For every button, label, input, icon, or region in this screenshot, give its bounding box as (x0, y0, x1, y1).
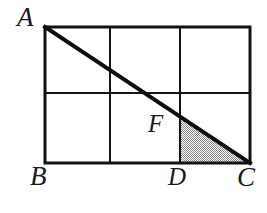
point-label-d: D (168, 164, 186, 189)
point-label-f: F (148, 111, 163, 136)
vertex-label-c: C (237, 164, 255, 191)
vertex-label-b: B (30, 163, 47, 190)
geometry-figure: A B C D F (0, 0, 267, 213)
vertex-label-a: A (17, 4, 34, 31)
